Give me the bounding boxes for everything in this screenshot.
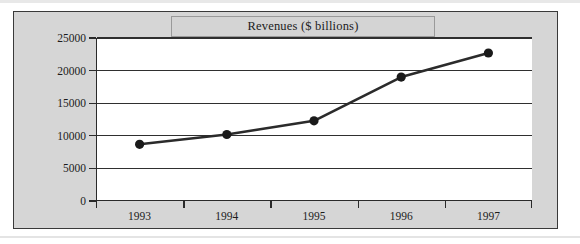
- x-axis-tick-label: 1996: [390, 210, 413, 222]
- y-axis-tick-label: 20000: [57, 65, 86, 77]
- x-axis-tick-label: 1995: [303, 210, 326, 222]
- y-axis-tick-mark: [89, 37, 96, 38]
- data-series-line: 1993: 87001994: 102001995: 123001996: 19…: [96, 38, 532, 201]
- x-axis-tick-label: 1997: [477, 210, 500, 222]
- y-axis-tick-mark: [89, 135, 96, 136]
- bottom-divider: [0, 236, 580, 238]
- data-point-marker: 1994: 10200: [222, 130, 231, 139]
- y-axis-tick-label: 10000: [57, 130, 86, 142]
- y-axis-tick-label: 25000: [57, 32, 86, 44]
- y-axis-tick-mark: [89, 200, 96, 201]
- y-axis-tick-mark: [89, 168, 96, 169]
- y-axis-ticks: [88, 38, 96, 201]
- y-axis-tick-label: 5000: [63, 162, 86, 174]
- x-axis-tick-label: 1994: [215, 210, 238, 222]
- chart-title: Revenues ($ billions): [247, 19, 358, 34]
- x-axis-tick-mark: [96, 201, 97, 208]
- x-axis-tick-mark: [531, 201, 532, 208]
- y-axis-tick-label: 15000: [57, 97, 86, 109]
- top-divider: [0, 0, 580, 3]
- data-point-marker: 1995: 12300: [309, 116, 318, 125]
- x-axis-tick-mark: [358, 201, 359, 208]
- x-axis-labels: 19931994199519961997: [96, 210, 532, 230]
- y-axis-tick-label: 0: [80, 195, 86, 207]
- data-point-marker: 1996: 19000: [397, 73, 406, 82]
- series-polyline: [140, 53, 489, 144]
- y-axis-tick-mark: [89, 70, 96, 71]
- data-point-marker: 1993: 8700: [135, 140, 144, 149]
- chart-page: Revenues ($ billions) 250002000015000100…: [0, 0, 580, 244]
- chart-title-box: Revenues ($ billions): [171, 16, 435, 37]
- x-axis-tick-mark: [270, 201, 271, 208]
- figure-frame: Revenues ($ billions) 250002000015000100…: [13, 11, 558, 229]
- x-axis-tick-label: 1993: [128, 210, 151, 222]
- y-axis-labels: 2500020000150001000050000: [14, 38, 86, 201]
- x-axis-tick-mark: [183, 201, 184, 208]
- x-axis-ticks: [96, 201, 532, 209]
- data-point-marker: 1997: 22700: [484, 48, 493, 57]
- x-axis-tick-mark: [445, 201, 446, 208]
- y-axis-tick-mark: [89, 103, 96, 104]
